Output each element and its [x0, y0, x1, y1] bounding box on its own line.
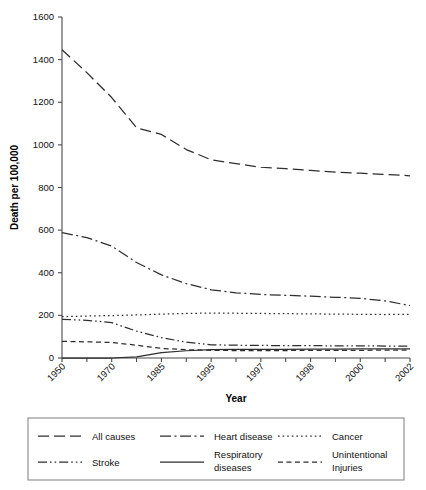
series-line-cancer	[62, 313, 410, 317]
legend-label: Cancer	[332, 431, 363, 442]
legend-label: Heart disease	[214, 431, 273, 442]
x-axis-tick-label: 1997	[244, 361, 267, 384]
y-axis-tick-label: 800	[38, 182, 54, 193]
y-axis-tick-label: 0	[49, 352, 54, 363]
x-axis-tick-label: 1970	[94, 361, 117, 384]
y-axis-tick-label: 1200	[33, 96, 54, 107]
y-axis-tick-label: 1400	[33, 54, 54, 65]
y-axis-tick-label: 200	[38, 309, 54, 320]
series-line-all-causes	[62, 50, 410, 176]
x-axis-tick-label: 1995	[194, 361, 217, 384]
legend-label: All causes	[92, 431, 136, 442]
series-line-stroke	[62, 319, 410, 346]
legend-label: Respiratory	[214, 449, 263, 460]
y-axis-tick-label: 600	[38, 224, 54, 235]
legend-label: Injuries	[332, 462, 363, 473]
legend-label: Unintentional	[332, 449, 387, 460]
line-chart: 02004006008001000120014001600Death per 1…	[0, 0, 426, 490]
y-axis-tick-label: 400	[38, 267, 54, 278]
x-axis-tick-label: 1950	[45, 361, 68, 384]
x-axis-tick-label: 2002	[393, 361, 416, 384]
x-axis-tick-label: 1985	[144, 361, 167, 384]
legend-label: diseases	[214, 462, 252, 473]
series-line-heart-disease	[62, 233, 410, 306]
x-axis-tick-label: 1998	[293, 361, 316, 384]
legend-label: Stroke	[92, 457, 119, 468]
x-axis-title: Year	[225, 393, 246, 404]
y-axis-tick-label: 1600	[33, 11, 54, 22]
y-axis-tick-label: 1000	[33, 139, 54, 150]
x-axis-tick-label: 2000	[343, 361, 366, 384]
chart-container: 02004006008001000120014001600Death per 1…	[0, 0, 426, 490]
y-axis-title: Death per 100,000	[9, 145, 20, 230]
